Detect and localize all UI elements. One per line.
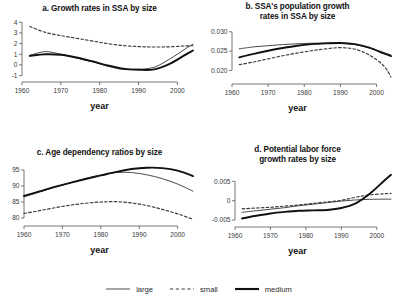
svg-text:1980: 1980 (299, 232, 314, 239)
svg-text:95: 95 (12, 166, 20, 173)
panel-b-xaxis-label: year (198, 103, 397, 113)
panel-b-plot: 0.0200.0250.03019601970198019902000 (198, 22, 397, 102)
legend-key-medium-solid-thick (234, 285, 260, 293)
svg-text:0.005: 0.005 (214, 178, 231, 185)
panel-d-title-line2: growth rates by size (198, 155, 397, 165)
svg-text:2000: 2000 (170, 87, 185, 94)
svg-text:1990: 1990 (334, 232, 349, 239)
panel-a-plot: -10123419601970198019902000 (0, 14, 199, 100)
panel-d-title-line1: d. Potential labor force (198, 145, 397, 155)
svg-text:2000: 2000 (369, 232, 384, 239)
svg-text:1970: 1970 (54, 87, 69, 94)
series-line-medium (242, 175, 391, 219)
series-line-medium (24, 168, 193, 196)
svg-text:1980: 1980 (297, 89, 312, 96)
svg-text:1960: 1960 (225, 89, 240, 96)
panel-c: c. Age dependency ratios by size 8085909… (0, 148, 199, 255)
svg-text:-1: -1 (12, 72, 18, 79)
panel-b-title: b. SSA's population growth rates in SSA … (198, 2, 397, 22)
legend-label-medium: medium (265, 285, 292, 294)
svg-text:1970: 1970 (263, 232, 278, 239)
panel-c-svg: 8085909519601970198019902000 (0, 158, 199, 244)
series-line-small (24, 202, 193, 220)
panel-c-title: c. Age dependency ratios by size (0, 148, 199, 158)
panel-a-title: a. Growth rates in SSA by size (0, 4, 199, 14)
svg-text:1990: 1990 (132, 231, 147, 238)
svg-text:90: 90 (12, 182, 20, 189)
figure-legend: large small medium (0, 278, 397, 300)
svg-text:2000: 2000 (369, 89, 384, 96)
panel-d-svg: -0.00500.00519601970198019902000 (198, 165, 397, 245)
svg-text:1980: 1980 (93, 231, 108, 238)
panel-d-plot: -0.00500.00519601970198019902000 (198, 165, 397, 245)
svg-text:0.025: 0.025 (211, 47, 228, 54)
panel-b-title-line1: b. SSA's population growth (198, 2, 397, 12)
svg-text:1960: 1960 (228, 232, 243, 239)
svg-text:1970: 1970 (261, 89, 276, 96)
panel-b-svg: 0.0200.0250.03019601970198019902000 (198, 22, 397, 102)
panel-a: a. Growth rates in SSA by size -10123419… (0, 4, 199, 111)
legend-item-small: small (169, 285, 218, 294)
panel-c-xaxis-label: year (0, 245, 199, 255)
panel-c-plot: 8085909519601970198019902000 (0, 158, 199, 244)
svg-text:85: 85 (12, 198, 20, 205)
legend-label-large: large (136, 285, 153, 294)
series-line-large (24, 172, 193, 197)
svg-text:2000: 2000 (170, 231, 185, 238)
legend-item-large: large (105, 285, 153, 294)
svg-text:0.030: 0.030 (211, 28, 228, 35)
legend-key-small-dashed (169, 285, 195, 293)
series-line-small (30, 27, 193, 47)
legend-key-large-solid-thin (105, 285, 131, 293)
legend-label-small: small (200, 285, 218, 294)
svg-text:1970: 1970 (55, 231, 70, 238)
legend-item-medium: medium (234, 285, 292, 294)
panel-d-title: d. Potential labor force growth rates by… (198, 145, 397, 165)
svg-text:-0.005: -0.005 (212, 216, 231, 223)
panel-b: b. SSA's population growth rates in SSA … (198, 2, 397, 113)
svg-text:4: 4 (14, 19, 18, 26)
svg-text:3: 3 (14, 29, 18, 36)
panel-a-xaxis-label: year (0, 101, 199, 111)
svg-text:2: 2 (14, 40, 18, 47)
svg-text:0: 0 (14, 61, 18, 68)
svg-text:1990: 1990 (333, 89, 348, 96)
svg-text:1960: 1960 (17, 231, 32, 238)
svg-text:0: 0 (227, 197, 231, 204)
figure-panel-grid: a. Growth rates in SSA by size -10123419… (0, 0, 397, 302)
svg-text:1990: 1990 (131, 87, 146, 94)
svg-text:1960: 1960 (15, 87, 30, 94)
panel-b-title-line2: rates in SSA by size (198, 12, 397, 22)
panel-d: d. Potential labor force growth rates by… (198, 145, 397, 256)
svg-text:0.020: 0.020 (211, 67, 228, 74)
svg-text:1980: 1980 (92, 87, 107, 94)
svg-text:80: 80 (12, 214, 20, 221)
panel-a-svg: -10123419601970198019902000 (0, 14, 199, 100)
panel-d-xaxis-label: year (198, 246, 397, 256)
svg-text:1: 1 (14, 51, 18, 58)
